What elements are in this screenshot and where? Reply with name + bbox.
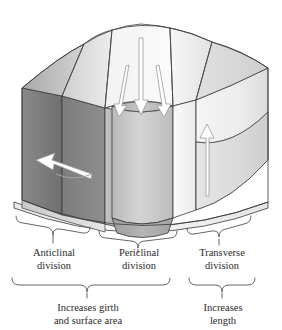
left-outer-wall <box>22 88 62 215</box>
label-girth-line2: and surface area <box>54 315 123 326</box>
label-girth-line1: Increases girth <box>57 302 119 313</box>
anticlinal-wall-dark <box>62 96 105 224</box>
label-anticlinal-line1: Anticlinal <box>33 247 75 258</box>
figure-root: Anticlinal division Periclinal division … <box>0 0 282 330</box>
bracket-length <box>189 278 255 292</box>
label-anticlinal-line2: division <box>37 260 72 271</box>
label-transverse-line2: division <box>205 260 240 271</box>
labels-row-one: Anticlinal division Periclinal division … <box>33 247 245 271</box>
core-cylinder-wall <box>112 106 173 224</box>
cell-division-diagram: Anticlinal division Periclinal division … <box>0 0 282 330</box>
label-transverse-line1: Transverse <box>199 247 245 258</box>
label-periclinal-line1: Periclinal <box>119 247 159 258</box>
label-periclinal-line2: division <box>122 260 157 271</box>
right-radial-cut-face <box>173 100 196 218</box>
bracket-row-lower <box>12 278 255 298</box>
label-length-line1: Increases <box>203 302 242 313</box>
label-length-line2: length <box>210 315 237 326</box>
labels-row-two: Increases girth and surface area Increas… <box>54 302 243 326</box>
bracket-girth <box>12 278 170 292</box>
